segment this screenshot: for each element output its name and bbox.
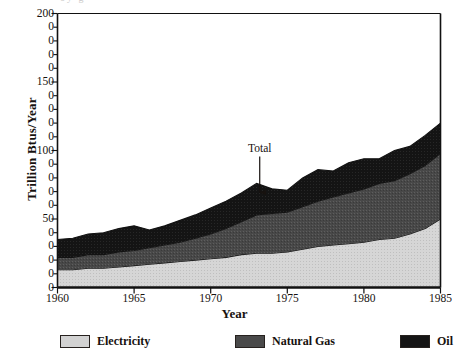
annotation-total: Total	[248, 142, 271, 154]
x-tick-label: 1960	[46, 292, 69, 304]
legend-item-natural-gas: Natural Gas	[235, 334, 335, 349]
x-tick-label: 1970	[199, 292, 222, 304]
legend-label: Electricity	[97, 334, 150, 349]
legend-item-oil: Oil	[400, 334, 453, 349]
x-tick-label: 1985	[429, 292, 452, 304]
x-tick-label: 1980	[352, 292, 375, 304]
x-tick-label: 1965	[123, 292, 146, 304]
legend-label: Oil	[437, 334, 453, 349]
chart-figure: oy g Trillion Btus/Year 2000000150000010…	[0, 0, 469, 357]
legend-label: Natural Gas	[272, 334, 335, 349]
x-axis-tick-labels: 196019651970197519801985	[0, 0, 469, 357]
chart-legend: ElectricityNatural GasOil	[0, 330, 469, 357]
legend-swatch	[400, 335, 430, 348]
x-tick-label: 1975	[276, 292, 299, 304]
legend-item-electricity: Electricity	[60, 334, 150, 349]
legend-swatch	[60, 335, 90, 348]
legend-swatch	[235, 335, 265, 348]
x-axis-title: Year	[0, 306, 469, 322]
